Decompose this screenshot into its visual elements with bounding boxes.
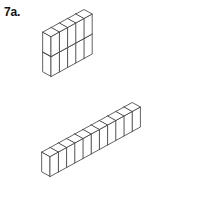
figure-7a-container: 7a. <box>0 0 221 201</box>
cube-lower-row-10 <box>42 148 58 177</box>
cube-structure-upper-wall <box>43 10 92 77</box>
cube-upper-wall-9 <box>43 28 59 57</box>
isometric-cube-diagram <box>0 0 221 201</box>
cube-structure-lower-row <box>42 103 140 177</box>
